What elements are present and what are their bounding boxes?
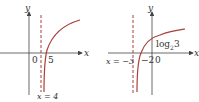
log-text: log [156,39,170,49]
right-graph [108,12,193,95]
left-x-intercept-label: 5 [48,56,54,65]
left-asymptote-label: x = 4 [37,93,58,101]
right-origin-label: 0 [155,56,161,65]
right-y-label: y [148,4,153,13]
log-arg: 3 [174,39,180,49]
graphs-svg [0,0,199,102]
right-y-intercept-label: log23 [156,40,180,51]
right-x-label: x [194,49,199,58]
right-asymptote-label: x = −3 [106,58,134,66]
left-y-label: y [25,4,30,13]
right-x-intercept-label: −2 [141,56,154,65]
graphs-figure: y x 0 5 x = 4 y x 0 −2 log23 x = −3 [0,0,199,102]
left-graph [0,12,82,95]
left-origin-label: 0 [32,56,38,65]
left-x-label: x [84,49,89,58]
